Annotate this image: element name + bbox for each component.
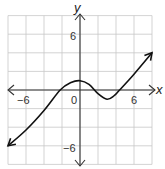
x-tick-label-neg6: −6	[17, 94, 30, 106]
y-tick-label-pos6: 6	[70, 30, 76, 42]
y-axis-label: y	[73, 0, 82, 15]
x-tick-label-zero: 0	[71, 94, 77, 106]
coordinate-plane: y x −6 0 6 6 −6	[0, 0, 165, 169]
x-tick-label-pos6: 6	[131, 94, 137, 106]
x-axis-label: x	[155, 82, 163, 97]
y-tick-label-neg6: −6	[63, 142, 76, 154]
